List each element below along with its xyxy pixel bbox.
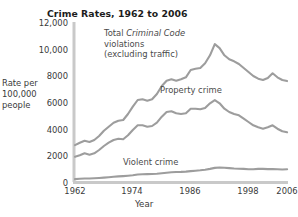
x-tick-1998: 1998 [228,186,268,196]
y-tick-4000: 4000 [26,125,68,135]
x-tick-1974: 1974 [112,186,152,196]
x-tick-2006: 2006 [267,186,298,196]
series-label-total-line3: (excluding traffic) [104,49,185,60]
series-line-violent [75,168,287,180]
y-axis-label-line3: people [2,100,49,111]
y-axis-label: Rate per 100,000 people [2,78,49,112]
crime-rates-chart-figure: Crime Rates, 1962 to 2006 12,000 10,000 … [0,0,298,217]
y-axis-label-line2: 100,000 [2,89,49,100]
y-tick-2000: 2000 [26,151,68,161]
series-label-total-italic: Criminal Code [126,28,185,38]
y-tick-12000: 12,000 [26,18,68,28]
series-label-violent: Violent crime [123,157,178,168]
series-label-total-prefix: Total [104,28,126,38]
y-tick-10000: 10,000 [26,45,68,55]
x-tick-1962: 1962 [55,186,95,196]
series-label-property: Property crime [160,85,222,96]
series-label-total-line1: Total Criminal Code [104,28,185,39]
series-label-total-line2: violations [104,39,185,50]
x-tick-1986: 1986 [170,186,210,196]
series-label-total: Total Criminal Code violations (excludin… [104,28,185,60]
x-axis-label: Year [135,199,153,209]
y-axis-label-line1: Rate per [2,78,49,89]
